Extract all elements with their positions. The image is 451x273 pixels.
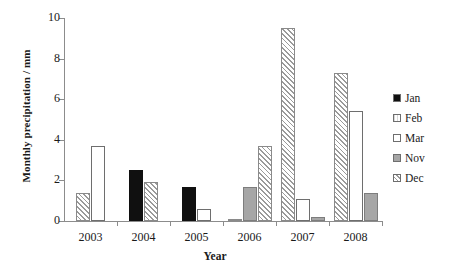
bar-2005-jan <box>182 187 196 222</box>
legend-label: Mar <box>405 132 424 144</box>
x-tick-mark <box>170 221 171 226</box>
x-tick-label: 2004 <box>117 230 170 245</box>
legend-label: Feb <box>405 112 422 124</box>
legend-item-mar: Mar <box>393 128 451 148</box>
legend-swatch-jan-icon <box>393 94 401 102</box>
bar-2008-nov <box>364 193 378 221</box>
legend-label: Dec <box>405 172 424 184</box>
x-tick-mark <box>117 221 118 226</box>
x-tick-label: 2005 <box>170 230 223 245</box>
bar-2004-jan <box>129 170 143 221</box>
bar-2004-dec <box>144 182 158 221</box>
bar-2008-dec <box>334 73 348 221</box>
x-tick-mark <box>329 221 330 226</box>
legend-label: Jan <box>405 92 420 104</box>
legend-item-nov: Nov <box>393 148 451 168</box>
x-axis-title: Year <box>45 250 385 262</box>
legend-item-dec: Dec <box>393 168 451 188</box>
y-tick-label: 0 <box>54 213 60 228</box>
x-tick-label: 2006 <box>223 230 276 245</box>
y-axis-title: Monthly precipitation / mm <box>20 16 32 216</box>
bar-2005-mar <box>197 209 211 221</box>
legend-swatch-mar-icon <box>393 134 401 142</box>
y-tick-label: 8 <box>54 51 60 66</box>
x-tick-label: 2007 <box>276 230 329 245</box>
y-axis-line <box>64 18 65 221</box>
bar-2007-nov <box>311 217 325 221</box>
legend-swatch-feb-icon <box>393 114 401 122</box>
x-tick-mark <box>276 221 277 226</box>
legend-swatch-nov-icon <box>393 154 401 162</box>
x-tick-mark <box>382 221 383 226</box>
bar-2006-nov <box>243 187 257 222</box>
y-tick-label: 10 <box>48 10 60 25</box>
plot-area: 0246810 200320042005200620072008 <box>64 18 382 221</box>
legend-item-feb: Feb <box>393 108 451 128</box>
chart-legend: JanFebMarNovDec <box>393 88 451 188</box>
x-tick-mark <box>223 221 224 226</box>
y-tick-label: 6 <box>54 91 60 106</box>
bar-2007-dec <box>281 28 295 221</box>
bar-2006-dec <box>258 146 272 221</box>
bar-2008-mar <box>349 111 363 221</box>
bar-2007-mar <box>296 199 310 221</box>
x-tick-label: 2003 <box>64 230 117 245</box>
y-tick-label: 4 <box>54 132 60 147</box>
bar-2003-mar <box>91 146 105 221</box>
legend-swatch-dec-icon <box>393 174 401 182</box>
bar-2003-dec <box>76 193 90 221</box>
legend-item-jan: Jan <box>393 88 451 108</box>
legend-label: Nov <box>405 152 425 164</box>
bar-2006-feb <box>228 219 242 221</box>
x-tick-label: 2008 <box>329 230 382 245</box>
precipitation-bar-chart: Monthly precipitation / mm 0246810 20032… <box>0 0 451 273</box>
y-tick-label: 2 <box>54 172 60 187</box>
